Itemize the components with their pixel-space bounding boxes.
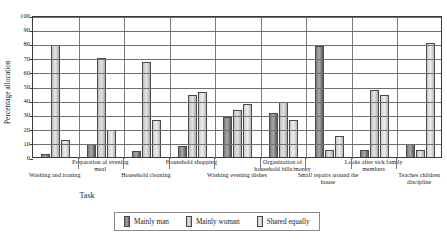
bar bbox=[289, 120, 298, 157]
legend-label: Mainly man bbox=[134, 218, 169, 226]
y-tick-label: 50 bbox=[23, 84, 30, 91]
legend-label: Shared equally bbox=[267, 218, 310, 226]
bar bbox=[132, 151, 141, 157]
y-tick-mark bbox=[30, 116, 33, 117]
y-tick-mark bbox=[30, 31, 33, 32]
y-tick-mark bbox=[30, 17, 33, 18]
legend-item: Mainly man bbox=[124, 216, 169, 227]
gridline bbox=[33, 73, 441, 74]
y-axis-tick-labels: 1009080706050403020100 bbox=[14, 16, 31, 158]
y-tick-label: 10 bbox=[23, 141, 30, 148]
y-tick-mark bbox=[30, 102, 33, 103]
y-tick-label: 30 bbox=[23, 112, 30, 119]
gridline bbox=[33, 116, 441, 117]
legend-label: Mainly woman bbox=[196, 218, 240, 226]
bar bbox=[335, 136, 344, 157]
gridline bbox=[33, 59, 441, 60]
y-tick-label: 70 bbox=[23, 55, 30, 62]
bar bbox=[325, 150, 334, 157]
legend-swatch-icon bbox=[257, 216, 263, 227]
bar bbox=[269, 113, 278, 157]
y-tick-mark bbox=[30, 59, 33, 60]
x-tick-mark bbox=[78, 158, 79, 169]
y-axis-title: Percentage allocation bbox=[1, 18, 15, 166]
gridline bbox=[33, 17, 441, 18]
bar bbox=[188, 95, 197, 157]
legend-item: Mainly woman bbox=[186, 216, 240, 227]
legend-item: Shared equally bbox=[257, 216, 310, 227]
bar bbox=[416, 150, 425, 157]
legend-swatch-icon bbox=[124, 216, 130, 227]
bar bbox=[61, 140, 70, 157]
bar bbox=[223, 117, 232, 157]
chart-legend: Mainly manMainly womanShared equally bbox=[114, 212, 320, 231]
x-tick-mark bbox=[305, 158, 306, 169]
x-tick-mark bbox=[123, 158, 124, 169]
x-tick-mark bbox=[396, 158, 397, 169]
y-tick-label: 90 bbox=[23, 27, 30, 34]
y-tick-mark bbox=[30, 144, 33, 145]
bar bbox=[178, 146, 187, 157]
y-tick-mark bbox=[30, 45, 33, 46]
y-tick-label: 100 bbox=[20, 13, 30, 20]
bar bbox=[360, 150, 369, 157]
x-category-label: Teaches children discipline bbox=[386, 172, 447, 187]
bar bbox=[142, 62, 151, 157]
y-tick-label: 60 bbox=[23, 70, 30, 77]
bar bbox=[87, 144, 96, 157]
bar bbox=[152, 120, 161, 157]
legend-swatch-icon bbox=[186, 216, 192, 227]
y-tick-label: 80 bbox=[23, 41, 30, 48]
x-tick-mark bbox=[351, 158, 352, 169]
y-tick-mark bbox=[30, 73, 33, 74]
plot-area bbox=[32, 16, 442, 158]
bar bbox=[426, 43, 435, 157]
y-tick-label: 20 bbox=[23, 126, 30, 133]
bar bbox=[41, 154, 50, 157]
y-tick-label: 40 bbox=[23, 98, 30, 105]
bar bbox=[370, 90, 379, 157]
bar bbox=[380, 95, 389, 157]
x-tick-mark bbox=[260, 158, 261, 169]
bar bbox=[233, 110, 242, 157]
gridline bbox=[33, 144, 441, 145]
y-tick-mark bbox=[30, 130, 33, 131]
gridline bbox=[33, 130, 441, 131]
gridline bbox=[33, 31, 441, 32]
gridline bbox=[33, 45, 441, 46]
gridline bbox=[33, 88, 441, 89]
y-tick-mark bbox=[30, 88, 33, 89]
grouped-bar-chart: Percentage allocation 100908070605040302… bbox=[0, 0, 447, 243]
x-category-label: Household cleaning bbox=[113, 172, 179, 179]
gridline bbox=[33, 102, 441, 103]
x-axis-category-labels: Washing and ironingPreparation of evenin… bbox=[32, 158, 442, 192]
x-tick-mark bbox=[214, 158, 215, 169]
x-tick-mark bbox=[169, 158, 170, 169]
bar bbox=[406, 144, 415, 157]
x-axis-title: Task bbox=[32, 191, 142, 200]
x-category-label: Small repairs around the house bbox=[295, 172, 361, 187]
